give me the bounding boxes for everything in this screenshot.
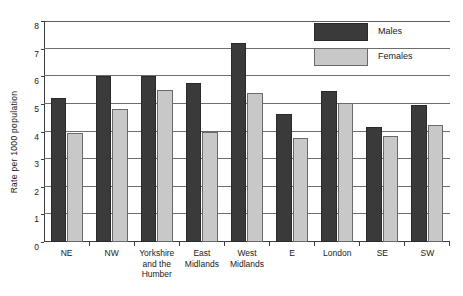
x-axis-label-line: West — [224, 248, 269, 259]
bar-group — [179, 21, 224, 242]
x-tick-mark — [314, 242, 315, 246]
x-axis-label-line: London — [315, 248, 360, 259]
x-tick-mark — [179, 242, 180, 246]
x-axis-label: EastMidlands — [179, 248, 224, 269]
legend-item-males: Males — [314, 20, 446, 45]
bar-females — [202, 132, 218, 243]
x-axis-label: WestMidlands — [224, 248, 269, 269]
x-axis-labels: NENWYorkshireand theHumberEastMidlandsWe… — [44, 248, 450, 294]
x-axis-label-line: SW — [405, 248, 450, 259]
legend-item-females: Females — [314, 45, 446, 70]
x-axis-label: SE — [360, 248, 405, 259]
cropped-title-strip — [0, 0, 463, 5]
x-axis-label-line: East — [179, 248, 224, 259]
legend-swatch-females — [314, 48, 368, 66]
x-tick-mark — [359, 242, 360, 246]
x-tick-mark — [404, 242, 405, 246]
x-axis-label-line: Yorkshire — [134, 248, 179, 259]
x-tick-mark — [449, 242, 450, 246]
x-axis-label-line: Humber — [134, 269, 179, 280]
bar-chart: Rate per 1000 population 012345678 NENWY… — [0, 0, 463, 296]
legend-label-females: Females — [378, 51, 413, 61]
bar-group — [89, 21, 134, 242]
x-axis-label-line: SE — [360, 248, 405, 259]
x-axis-label: E — [270, 248, 315, 259]
x-axis-label-line: Midlands — [224, 259, 269, 270]
bar-females — [293, 138, 309, 242]
x-axis-label: Yorkshireand theHumber — [134, 248, 179, 280]
bar-females — [338, 103, 354, 243]
bar-males — [96, 76, 112, 242]
x-axis-label-line: Midlands — [179, 259, 224, 270]
y-axis-title: Rate per 1000 population — [9, 57, 19, 227]
bar-males — [51, 98, 67, 242]
x-axis-label-line: E — [270, 248, 315, 259]
bar-group — [224, 21, 269, 242]
bar-females — [157, 90, 173, 242]
x-tick-mark — [89, 242, 90, 246]
x-tick-mark — [269, 242, 270, 246]
bar-females — [383, 136, 399, 242]
bar-males — [186, 83, 202, 242]
x-axis-label: London — [315, 248, 360, 259]
bar-group — [270, 21, 315, 242]
x-axis-label-line: NE — [44, 248, 89, 259]
x-axis-label: NW — [89, 248, 134, 259]
legend-label-males: Males — [378, 26, 402, 36]
bar-females — [67, 133, 83, 242]
x-axis-label: NE — [44, 248, 89, 259]
bar-group — [44, 21, 89, 242]
bar-females — [247, 93, 263, 242]
legend: Males Females — [314, 20, 446, 70]
bar-males — [276, 114, 292, 242]
y-tick-mark — [41, 242, 44, 243]
bar-males — [366, 127, 382, 242]
bar-males — [321, 91, 337, 242]
bar-group — [134, 21, 179, 242]
bar-males — [141, 76, 157, 242]
x-axis-label-line: and the — [134, 259, 179, 270]
legend-swatch-males — [314, 23, 368, 41]
x-axis-label: SW — [405, 248, 450, 259]
bar-males — [411, 105, 427, 242]
bar-females — [112, 109, 128, 242]
x-tick-mark — [224, 242, 225, 246]
bar-females — [428, 125, 444, 242]
x-tick-mark — [134, 242, 135, 246]
x-axis-label-line: NW — [89, 248, 134, 259]
bar-males — [231, 43, 247, 242]
